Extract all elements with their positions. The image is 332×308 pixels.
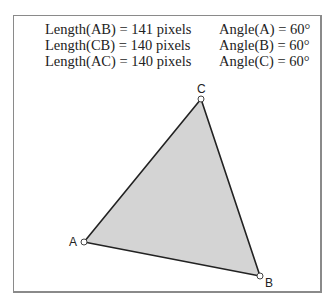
vertex-c-label: C — [197, 82, 206, 96]
triangle-canvas: A B C — [0, 0, 332, 308]
triangle-shape — [84, 99, 260, 276]
vertex-a-label: A — [69, 235, 77, 249]
vertex-b-label: B — [265, 276, 273, 290]
vertex-c-handle[interactable] — [198, 96, 204, 102]
vertex-b-handle[interactable] — [257, 273, 263, 279]
vertex-a-handle[interactable] — [81, 239, 87, 245]
